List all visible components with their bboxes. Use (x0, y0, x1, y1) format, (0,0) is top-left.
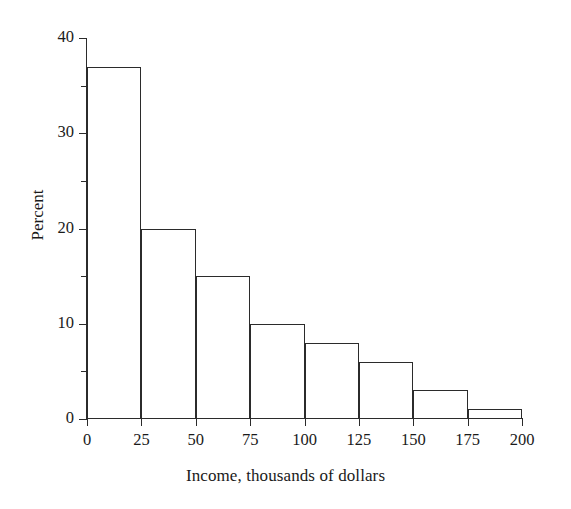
y-axis-tick (79, 229, 87, 230)
x-axis-tick (141, 419, 142, 426)
y-axis-tick (79, 419, 87, 420)
x-axis-tick-label: 0 (57, 430, 117, 450)
y-axis-tick (79, 324, 87, 325)
x-axis-tick (522, 419, 523, 426)
histogram-figure: 0255075100125150175200 010203040 Income,… (0, 0, 571, 509)
x-axis-tick (305, 419, 306, 426)
x-axis-tick-label: 200 (492, 430, 552, 450)
plot-area (87, 38, 522, 419)
y-axis-tick-label: 40 (14, 27, 74, 47)
x-axis-tick-label: 150 (383, 430, 443, 450)
y-axis-tick (79, 133, 87, 134)
x-axis-tick-label: 100 (275, 430, 335, 450)
histogram-bar (250, 324, 304, 419)
x-axis-tick (359, 419, 360, 426)
histogram-bar (87, 67, 141, 419)
y-axis-minor-tick (81, 276, 87, 277)
x-axis-tick (196, 419, 197, 426)
x-axis-tick-label: 125 (329, 430, 389, 450)
histogram-bar (196, 276, 250, 419)
x-axis-title: Income, thousands of dollars (0, 466, 571, 486)
histogram-bar (305, 343, 359, 419)
x-axis-tick-label: 50 (166, 430, 226, 450)
histogram-bar (359, 362, 413, 419)
y-axis-minor-tick (81, 86, 87, 87)
y-axis-minor-tick (81, 371, 87, 372)
x-axis-tick (87, 419, 88, 426)
x-axis-tick (413, 419, 414, 426)
histogram-bar (141, 229, 195, 420)
y-axis-title: Percent (28, 155, 48, 275)
y-axis-tick-label: 30 (14, 122, 74, 142)
x-axis-tick-label: 75 (220, 430, 280, 450)
y-axis-tick-label: 10 (14, 313, 74, 333)
x-axis-tick-label: 25 (111, 430, 171, 450)
x-axis-tick-label: 175 (438, 430, 498, 450)
x-axis-tick (250, 419, 251, 426)
histogram-bar (413, 390, 467, 419)
y-axis-tick-label: 0 (14, 408, 74, 428)
y-axis-tick (79, 38, 87, 39)
y-axis-minor-tick (81, 181, 87, 182)
x-axis-tick (468, 419, 469, 426)
